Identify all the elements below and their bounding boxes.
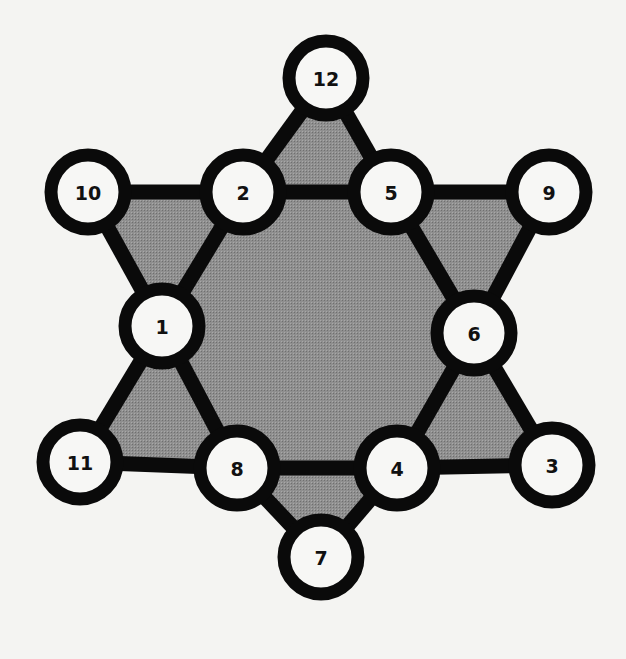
node-label: 6 — [467, 323, 480, 345]
node-label: 3 — [545, 455, 558, 477]
node-11: 11 — [43, 425, 117, 499]
node-label: 12 — [313, 68, 339, 90]
node-label: 7 — [314, 547, 327, 569]
node-5: 5 — [354, 155, 428, 229]
node-label: 8 — [230, 458, 243, 480]
node-label: 9 — [542, 182, 555, 204]
node-label: 10 — [75, 182, 101, 204]
star-diagram: 121025916118437 — [0, 0, 626, 659]
node-label: 2 — [236, 182, 249, 204]
node-8: 8 — [200, 431, 274, 505]
node-4: 4 — [360, 431, 434, 505]
node-10: 10 — [51, 155, 125, 229]
node-label: 5 — [384, 182, 397, 204]
node-12: 12 — [289, 41, 363, 115]
node-2: 2 — [206, 155, 280, 229]
node-label: 1 — [155, 316, 168, 338]
node-label: 11 — [67, 452, 93, 474]
node-label: 4 — [390, 458, 403, 480]
node-7: 7 — [284, 520, 358, 594]
node-1: 1 — [125, 289, 199, 363]
node-6: 6 — [437, 296, 511, 370]
node-9: 9 — [512, 155, 586, 229]
node-3: 3 — [515, 428, 589, 502]
